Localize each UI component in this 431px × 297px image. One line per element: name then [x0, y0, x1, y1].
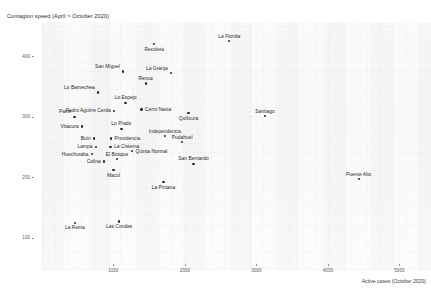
- data-point: [118, 220, 120, 222]
- data-point: [109, 146, 111, 148]
- data-point: [103, 160, 105, 162]
- data-point-label: Cerro Navia: [145, 107, 171, 112]
- y-axis-tick-mark: [32, 117, 34, 118]
- data-point: [116, 158, 118, 160]
- data-point: [187, 112, 189, 114]
- data-point: [181, 141, 183, 143]
- y-axis-tick-label: 200: [12, 175, 30, 180]
- data-point-label: Buin: [81, 136, 91, 141]
- data-point-label: Paine: [59, 109, 72, 114]
- data-point: [95, 146, 97, 148]
- data-point-label: Huechuraba: [62, 152, 89, 157]
- data-point-label: La Florida: [218, 34, 240, 39]
- x-axis-tick-label: 1000: [108, 268, 118, 273]
- data-point-label: Las Condes: [106, 224, 132, 229]
- data-point: [145, 82, 147, 84]
- x-axis-tick-label: 3000: [251, 268, 261, 273]
- data-point-label: Quinta Normal: [136, 149, 168, 154]
- y-axis-tick-mark: [32, 177, 34, 178]
- data-point: [131, 150, 133, 152]
- data-point: [170, 72, 172, 74]
- data-point-label: Renca: [139, 76, 153, 81]
- data-point: [81, 125, 83, 127]
- data-point: [120, 128, 122, 130]
- data-point-label: San Bernardo: [178, 156, 208, 161]
- data-point: [74, 222, 76, 224]
- data-point: [162, 181, 164, 183]
- data-point-label: Recoleta: [144, 47, 163, 52]
- data-point-label: Pudahuel: [172, 135, 193, 140]
- data-point: [164, 135, 166, 137]
- data-point-label: San Miguel: [95, 64, 120, 69]
- x-axis-tick-mark: [328, 264, 329, 266]
- y-axis-tick-label: 100: [12, 235, 30, 240]
- data-point: [140, 108, 142, 110]
- data-point-label: La Reina: [65, 225, 85, 230]
- y-axis-tick-mark: [32, 238, 34, 239]
- data-point: [110, 137, 112, 139]
- data-point-label: Macul: [107, 173, 120, 178]
- data-point: [112, 169, 114, 171]
- y-axis-tick-label: 300: [12, 114, 30, 119]
- data-point: [93, 137, 95, 139]
- scatter-chart: Contagion speed (April > October 2020) R…: [0, 0, 431, 297]
- data-point-label: Vitacura: [61, 124, 79, 129]
- data-point-label: Providencia: [114, 136, 140, 141]
- data-point-label: La Granja: [146, 66, 168, 71]
- data-point: [192, 163, 194, 165]
- y-axis-tick-label: 400: [12, 54, 30, 59]
- x-axis-tick-mark: [399, 264, 400, 266]
- x-axis-tick-mark: [185, 264, 186, 266]
- data-point-label: Lo Barnechea: [64, 85, 95, 90]
- data-point-label: Pedro Aguirre Cerda: [66, 108, 111, 113]
- data-point-label: Lo Prado: [111, 121, 131, 126]
- data-point: [122, 70, 124, 72]
- data-point-label: Santiago: [255, 109, 274, 114]
- data-point: [73, 116, 75, 118]
- y-axis-tick-mark: [32, 56, 34, 57]
- x-axis-tick-mark: [256, 264, 257, 266]
- data-point-label: Colina: [87, 159, 101, 164]
- data-point-label: Quilicura: [179, 116, 198, 121]
- data-point-label: La Pintana: [152, 185, 176, 190]
- data-point: [358, 178, 360, 180]
- data-point-label: Puente Alto: [346, 172, 371, 177]
- x-axis-tick-label: 5000: [394, 268, 404, 273]
- data-point-label: Independencia: [149, 129, 181, 134]
- x-axis-title: Active cases (October 2020): [362, 278, 426, 284]
- x-axis-tick-mark: [113, 264, 114, 266]
- plot-area: RecoletaLa FloridaSan MiguelLa GranjaRen…: [0, 0, 431, 297]
- data-point: [124, 102, 126, 104]
- data-point: [153, 43, 155, 45]
- x-axis-tick-label: 2000: [180, 268, 190, 273]
- data-point-label: Lampa: [77, 144, 92, 149]
- x-axis-tick-label: 4000: [323, 268, 333, 273]
- data-point: [91, 153, 93, 155]
- data-point: [97, 91, 99, 93]
- data-point-label: Lo Espejo: [115, 95, 137, 100]
- data-point-label: El Bosque: [106, 152, 128, 157]
- data-point: [113, 110, 115, 112]
- data-point: [264, 115, 266, 117]
- data-point: [228, 40, 230, 42]
